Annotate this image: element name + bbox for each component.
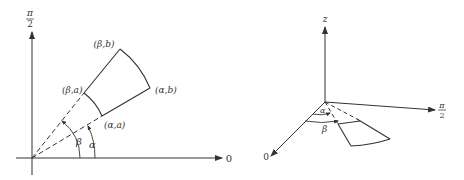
- zero-axis: [271, 102, 325, 156]
- y-axis-label-pi: π: [26, 8, 34, 18]
- pi2-axis: [325, 102, 435, 110]
- angle-label-alpha: α: [320, 106, 326, 115]
- left-polar-diagram: π 2 0 (β,b) (α,b) (β,a) (α,a) β α: [16, 8, 232, 175]
- zero-axis-label: 0: [263, 152, 269, 162]
- ray-alpha-dashed: [32, 116, 102, 158]
- angle-label-beta: β: [321, 124, 327, 134]
- label-alpha-a: (α,a): [104, 120, 126, 130]
- x-axis-label: 0: [226, 153, 232, 164]
- edge-beta: [84, 49, 120, 93]
- angle-arc-beta: [305, 121, 338, 123]
- label-beta-b: (β,b): [94, 39, 115, 49]
- ray-beta-dashed: [32, 93, 84, 158]
- edge-outer: [351, 139, 390, 146]
- edge-alpha: [102, 88, 150, 116]
- angle-label-alpha: α: [89, 139, 96, 150]
- edge-alpha: [357, 119, 390, 139]
- arc-b: [120, 49, 150, 88]
- y-axis-label-2: 2: [27, 19, 33, 29]
- label-beta-a: (β,a): [62, 85, 83, 95]
- diagram-canvas: π 2 0 (β,b) (α,b) (β,a) (α,a) β α z π 2 …: [0, 0, 464, 180]
- angle-label-beta: β: [75, 136, 82, 147]
- arc-a: [84, 93, 102, 116]
- edge-inner: [338, 121, 360, 124]
- edge-beta: [338, 124, 351, 146]
- pi2-axis-label-pi: π: [438, 101, 445, 110]
- pi2-axis-label-2: 2: [439, 111, 444, 120]
- z-axis-label: z: [322, 14, 328, 24]
- label-alpha-b: (α,b): [155, 85, 177, 95]
- right-3d-diagram: z π 2 0 α β: [263, 14, 446, 162]
